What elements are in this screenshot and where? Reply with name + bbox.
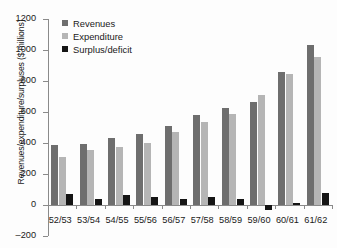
bar bbox=[51, 145, 58, 205]
legend-item-label: Revenues bbox=[73, 18, 115, 29]
bar bbox=[193, 115, 200, 205]
y-axis-tick: 200 bbox=[43, 174, 48, 175]
bar bbox=[108, 138, 115, 205]
legend-item: Revenues bbox=[62, 17, 132, 29]
x-axis-tick bbox=[247, 205, 248, 209]
legend-item: Expenditure bbox=[62, 30, 132, 42]
legend-swatch-icon bbox=[62, 20, 68, 26]
x-axis-tick bbox=[190, 205, 191, 209]
bar bbox=[314, 57, 321, 205]
bar bbox=[180, 199, 187, 205]
bar bbox=[165, 126, 172, 205]
y-axis-line bbox=[48, 19, 49, 236]
bar bbox=[59, 157, 66, 205]
x-axis-tick bbox=[218, 205, 219, 209]
y-axis-tick-label: 800 bbox=[21, 75, 36, 85]
bar bbox=[201, 122, 208, 205]
y-axis-tick: 0 bbox=[43, 205, 48, 206]
bar bbox=[258, 95, 265, 205]
legend-item-label: Surplus/deficit bbox=[73, 44, 132, 55]
bar bbox=[136, 134, 143, 205]
bar bbox=[286, 74, 293, 205]
x-axis-tick bbox=[105, 205, 106, 209]
x-axis-tick bbox=[76, 205, 77, 209]
bar bbox=[293, 203, 300, 205]
y-axis-tick-label: 400 bbox=[21, 137, 36, 147]
y-axis-tick: –200 bbox=[43, 236, 48, 237]
x-axis-tick-label: 61/62 bbox=[296, 215, 336, 225]
x-axis-tick bbox=[133, 205, 134, 209]
bar bbox=[144, 143, 151, 205]
y-axis-tick-label: 0 bbox=[31, 199, 36, 209]
bar bbox=[250, 102, 257, 205]
legend-item-label: Expenditure bbox=[73, 31, 123, 42]
x-axis-tick bbox=[275, 205, 276, 209]
bar bbox=[237, 199, 244, 205]
legend-swatch-icon bbox=[62, 33, 68, 39]
bar bbox=[222, 108, 229, 205]
bar bbox=[95, 199, 102, 205]
bar bbox=[123, 195, 130, 205]
bar bbox=[322, 193, 329, 205]
legend-swatch-icon bbox=[62, 46, 68, 52]
y-axis-tick-label: 1000 bbox=[16, 44, 36, 54]
bar bbox=[116, 147, 123, 205]
y-axis-tick-label: 600 bbox=[21, 106, 36, 116]
y-axis-tick: 1000 bbox=[43, 50, 48, 51]
x-axis-tick bbox=[162, 205, 163, 209]
bar bbox=[229, 114, 236, 205]
y-axis-tick: 400 bbox=[43, 143, 48, 144]
bar bbox=[87, 150, 94, 205]
bar bbox=[151, 197, 158, 205]
bar-chart-figure: Revenues/expenditure/surpluses ($ millio… bbox=[0, 0, 337, 248]
bar bbox=[278, 72, 285, 205]
x-axis-tick bbox=[332, 205, 333, 209]
bar bbox=[265, 205, 272, 210]
y-axis-tick: 600 bbox=[43, 112, 48, 113]
bar bbox=[172, 132, 179, 205]
bar bbox=[66, 194, 73, 205]
bar bbox=[208, 197, 215, 205]
x-axis-tick bbox=[304, 205, 305, 209]
y-axis-tick: 800 bbox=[43, 81, 48, 82]
y-axis-tick: 1200 bbox=[43, 19, 48, 20]
y-axis-tick-label: –200 bbox=[16, 230, 36, 240]
legend-item: Surplus/deficit bbox=[62, 43, 132, 55]
y-axis-tick-label: 200 bbox=[21, 168, 36, 178]
bar bbox=[307, 45, 314, 205]
chart-legend: RevenuesExpenditureSurplus/deficit bbox=[62, 17, 132, 56]
bar bbox=[80, 144, 87, 205]
y-axis-tick-label: 1200 bbox=[16, 13, 36, 23]
